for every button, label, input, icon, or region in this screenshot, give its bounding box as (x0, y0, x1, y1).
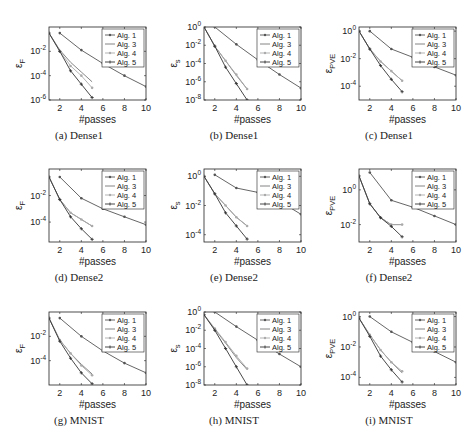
legend-entry: Alg. 1 (427, 173, 446, 182)
legend-entry: Alg. 1 (117, 316, 136, 325)
x-tick-label: 2 (57, 388, 62, 398)
x-tick-label: 2 (367, 245, 372, 255)
panel-caption: (e) Dense2 (155, 271, 313, 283)
legend-entry: Alg. 3 (272, 325, 291, 334)
x-tick-label: 10 (296, 245, 306, 255)
legend-entry: Alg. 1 (272, 173, 291, 182)
legend-entry: Alg. 5 (272, 58, 291, 67)
y-tick-label: 10-6 (185, 360, 201, 372)
legend: Alg. 1Alg. 3Alg. 4Alg. 5 (257, 171, 299, 209)
x-tick-label: 2 (212, 103, 217, 113)
x-tick-label: 4 (79, 388, 84, 398)
x-tick-label: 10 (451, 388, 461, 398)
legend-entry: Alg. 3 (117, 40, 136, 49)
x-tick-label: 6 (100, 388, 105, 398)
y-tick-label: 100 (187, 169, 201, 181)
legend-entry: Alg. 5 (427, 200, 446, 209)
legend-entry: Alg. 4 (272, 49, 291, 58)
x-tick-label: 6 (410, 103, 415, 113)
panel-caption: (g) MNIST (0, 414, 158, 426)
x-tick-label: 10 (296, 388, 306, 398)
chart-svg: 24681010-210-4Alg. 1Alg. 3Alg. 4Alg. 5εF… (0, 285, 158, 427)
chart-panel-h: 24681010010-210-410-610-8Alg. 1Alg. 3Alg… (155, 285, 313, 427)
x-tick-label: 8 (277, 245, 282, 255)
legend-entry: Alg. 4 (117, 49, 136, 58)
x-tick-label: 8 (432, 245, 437, 255)
panel-caption: (a) Dense1 (0, 129, 158, 141)
y-tick-label: 10-2 (340, 340, 356, 352)
y-axis-label: εF (13, 344, 27, 353)
legend-entry: Alg. 5 (117, 58, 136, 67)
x-tick-label: 6 (410, 245, 415, 255)
x-axis-label: #passes (389, 399, 426, 410)
x-tick-label: 6 (255, 245, 260, 255)
y-tick-label: 10-4 (185, 228, 201, 240)
chart-svg: 24681010010-210-4Alg. 1Alg. 3Alg. 4Alg. … (310, 285, 468, 427)
y-axis-label: εs (168, 344, 182, 352)
legend: Alg. 1Alg. 3Alg. 4Alg. 5 (412, 171, 454, 209)
legend: Alg. 1Alg. 3Alg. 4Alg. 5 (257, 314, 299, 352)
legend-entry: Alg. 5 (272, 200, 291, 209)
panel-caption: (d) Dense2 (0, 271, 158, 283)
legend-entry: Alg. 1 (427, 31, 446, 40)
panel-caption: (b) Dense1 (155, 129, 313, 141)
legend-entry: Alg. 4 (272, 191, 291, 200)
panel-caption: (c) Dense1 (310, 129, 468, 141)
x-tick-label: 6 (100, 245, 105, 255)
y-axis-label: εPVE (323, 196, 337, 215)
legend-entry: Alg. 4 (427, 334, 446, 343)
legend: Alg. 1Alg. 3Alg. 4Alg. 5 (412, 29, 454, 67)
legend-entry: Alg. 3 (427, 40, 446, 49)
chart-panel-c: 24681010010-210-4Alg. 1Alg. 3Alg. 4Alg. … (310, 0, 468, 142)
legend-entry: Alg. 5 (117, 200, 136, 209)
legend-entry: Alg. 1 (117, 31, 136, 40)
x-tick-label: 4 (79, 103, 84, 113)
legend-entry: Alg. 1 (272, 316, 291, 325)
legend-entry: Alg. 4 (427, 49, 446, 58)
legend-entry: Alg. 5 (427, 343, 446, 352)
x-tick-label: 2 (367, 103, 372, 113)
y-tick-label: 10-2 (340, 218, 356, 230)
legend-entry: Alg. 1 (117, 173, 136, 182)
x-tick-label: 10 (141, 245, 151, 255)
x-tick-label: 10 (451, 103, 461, 113)
legend-entry: Alg. 3 (117, 182, 136, 191)
y-tick-label: 10-2 (185, 199, 201, 211)
y-tick-label: 10-2 (185, 323, 201, 335)
legend: Alg. 1Alg. 3Alg. 4Alg. 5 (412, 314, 454, 352)
legend-entry: Alg. 4 (117, 334, 136, 343)
y-tick-label: 10-8 (185, 93, 201, 105)
x-tick-label: 6 (255, 103, 260, 113)
y-axis-label: εPVE (323, 54, 337, 73)
x-tick-label: 4 (389, 388, 394, 398)
x-tick-label: 8 (277, 103, 282, 113)
legend-entry: Alg. 5 (427, 58, 446, 67)
x-tick-label: 8 (277, 388, 282, 398)
chart-svg: 24681010-210-410-6Alg. 1Alg. 3Alg. 4Alg.… (0, 0, 158, 142)
legend-entry: Alg. 5 (117, 343, 136, 352)
legend-entry: Alg. 4 (117, 191, 136, 200)
legend-entry: Alg. 1 (272, 31, 291, 40)
chart-svg: 24681010010-210-4Alg. 1Alg. 3Alg. 4Alg. … (155, 142, 313, 284)
x-tick-label: 4 (79, 245, 84, 255)
legend-entry: Alg. 4 (427, 191, 446, 200)
y-tick-label: 100 (342, 183, 356, 195)
legend-entry: Alg. 3 (427, 325, 446, 334)
y-tick-label: 10-4 (340, 370, 356, 382)
x-tick-label: 2 (212, 388, 217, 398)
y-tick-label: 100 (342, 310, 356, 322)
y-tick-label: 10-6 (30, 93, 46, 105)
y-tick-label: 100 (187, 305, 201, 317)
x-tick-label: 8 (432, 103, 437, 113)
x-tick-label: 2 (57, 103, 62, 113)
y-tick-label: 10-6 (185, 75, 201, 87)
chart-panel-a: 24681010-210-410-6Alg. 1Alg. 3Alg. 4Alg.… (0, 0, 158, 142)
x-tick-label: 6 (100, 103, 105, 113)
legend-entry: Alg. 3 (272, 182, 291, 191)
legend-entry: Alg. 3 (117, 325, 136, 334)
x-tick-label: 10 (141, 388, 151, 398)
y-axis-label: εs (168, 201, 182, 209)
x-tick-label: 10 (141, 103, 151, 113)
legend: Alg. 1Alg. 3Alg. 4Alg. 5 (102, 171, 144, 209)
y-tick-label: 100 (187, 20, 201, 32)
